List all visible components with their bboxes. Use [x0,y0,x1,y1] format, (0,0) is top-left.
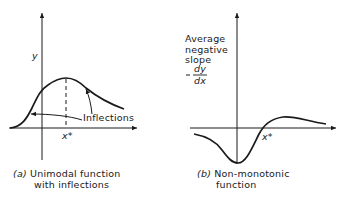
panel-b-y-label-line3: slope [185,55,228,66]
panel-b-caption-tag: (b) [197,168,211,179]
panel-b-non-monotonic-curve [194,117,326,163]
panel-a-plot [9,13,137,160]
panel-a-caption-line2: with inflections [13,179,120,190]
panel-b-y-label: Average negative slope [185,34,228,66]
panel-a-caption: (a) Unimodal function with inflections [13,168,120,190]
panel-b-dy-numerator: dy [194,64,206,75]
panel-a-x-star-label: x* [62,131,73,142]
panel-b-caption-line1: Non-monotonic [214,168,289,179]
panel-a-inflections-label: Inflections [83,113,134,124]
panel-b-caption-line2: function [197,179,290,190]
panel-a-inflection-arrow-left [31,114,82,120]
panel-b-caption: (b) Non-monotonic function [197,168,290,190]
panel-b-y-label-line1: Average [185,34,228,45]
panel-b-dx-denominator: dx [194,76,206,87]
panel-a-y-label: y [32,51,38,62]
panel-b-x-star-label: x* [262,132,273,143]
panel-a-caption-line1: Unimodal function [30,168,120,179]
panel-a-caption-tag: (a) [13,168,27,179]
